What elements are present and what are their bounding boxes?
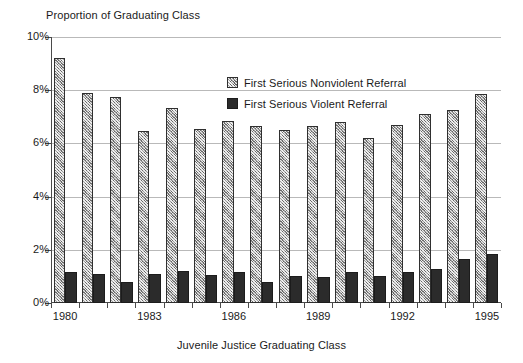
bar-nonviolent [475,94,487,303]
bar-nonviolent [447,110,459,303]
bar-chart: Proportion of Graduating Class First Ser… [0,0,523,363]
y-axis-title: Proportion of Graduating Class [46,9,200,21]
bar-violent [431,269,443,303]
bar-group [192,37,220,303]
bar-violent [262,282,274,303]
bar-violent [290,276,302,303]
bar-group [51,37,79,303]
x-axis-tick [79,303,80,308]
bar-violent [149,274,161,303]
bar-nonviolent [279,130,291,303]
x-axis-tick [51,303,52,308]
bar-group [135,37,163,303]
bar-group [107,37,135,303]
bar-violent [318,277,330,303]
x-axis-tick-label: 1989 [288,310,348,322]
bar-violent [178,271,190,303]
x-axis-tick [192,303,193,308]
legend-item-label: First Serious Nonviolent Referral [244,77,406,89]
bar-group [473,37,501,303]
legend-swatch-violent-icon [227,98,238,109]
x-axis-tick-label: 1986 [204,310,264,322]
bar-nonviolent [138,131,150,303]
x-axis-tick [276,303,277,308]
x-axis-tick-label: 1992 [373,310,433,322]
x-axis-title: Juvenile Justice Graduating Class [0,339,523,351]
bar-nonviolent [391,125,403,303]
legend-swatch-nonviolent-icon [227,77,238,88]
y-axis-tick-label: 8% [9,83,49,95]
y-axis-tick-label: 4% [9,190,49,202]
bar-nonviolent [194,129,206,303]
bar-violent [459,259,471,303]
x-axis-tick [360,303,361,308]
bar-nonviolent [54,58,66,303]
x-axis-tick-label: 1983 [119,310,179,322]
bar-violent [234,272,246,303]
bar-nonviolent [166,108,178,304]
bar-violent [487,254,499,303]
bar-nonviolent [419,114,431,303]
bar-group [445,37,473,303]
chart-legend: First Serious Nonviolent ReferralFirst S… [227,74,406,116]
bar-violent [403,272,415,303]
bar-nonviolent [307,126,319,303]
bar-nonviolent [250,126,262,303]
x-axis-tick [164,303,165,308]
bar-nonviolent [363,138,375,303]
x-axis-tick [135,303,136,308]
bar-nonviolent [82,93,94,303]
y-axis-tick-label: 6% [9,136,49,148]
x-axis-tick-label: 1995 [457,310,517,322]
x-axis-tick [332,303,333,308]
bar-violent [93,274,105,303]
x-axis-tick [501,303,502,308]
bar-nonviolent [110,97,122,303]
x-axis-tick [445,303,446,308]
legend-item: First Serious Violent Referral [227,95,406,112]
x-axis-tick [417,303,418,308]
x-axis-tick [304,303,305,308]
x-axis-tick [107,303,108,308]
bar-violent [121,282,133,303]
x-axis-tick [220,303,221,308]
x-axis-tick [473,303,474,308]
bar-nonviolent [335,122,347,303]
bar-group [417,37,445,303]
y-axis-tick-label: 2% [9,243,49,255]
x-axis-tick [389,303,390,308]
bar-violent [346,272,358,303]
bar-violent [206,275,218,303]
bar-violent [65,272,77,303]
legend-item: First Serious Nonviolent Referral [227,74,406,91]
bar-group [164,37,192,303]
x-axis-tick-label: 1980 [35,310,95,322]
bar-group [79,37,107,303]
bar-violent [374,276,386,303]
x-axis-tick [248,303,249,308]
y-axis-tick-label: 10% [9,30,49,42]
y-axis-tick-label: 0% [9,296,49,308]
legend-item-label: First Serious Violent Referral [244,98,387,110]
bar-nonviolent [222,121,234,303]
